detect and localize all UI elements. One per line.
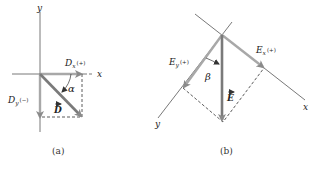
caption-a: (a)	[52, 146, 64, 156]
vector-components-diagram: x y α Dx(+) Dy(−) D (a) x y	[0, 0, 316, 169]
panel-a: x y α Dx(+) Dy(−) D (a)	[7, 3, 102, 156]
alpha-label: α	[68, 83, 75, 94]
dy-label: Dy(−)	[7, 95, 29, 107]
x-axis-label: x	[97, 69, 102, 79]
ey-component-arrow	[184, 35, 222, 87]
dashed-box	[183, 68, 264, 122]
dx-label: Dx(+)	[64, 58, 86, 69]
beta-label: β	[204, 71, 211, 82]
panel-b: x y β Ex(+) Ey(+) E (b)	[154, 14, 308, 156]
beta-arc	[206, 58, 219, 64]
ex-label: Ex(+)	[255, 45, 276, 56]
caption-b: (b)	[220, 146, 233, 156]
d-vector-label: D	[53, 105, 62, 115]
e-vector-label: E	[226, 93, 234, 103]
y-axis-label: y	[154, 119, 161, 129]
ey-label: Ey(+)	[168, 57, 189, 69]
x-axis-label: x	[303, 102, 308, 112]
y-axis-label: y	[36, 3, 43, 13]
